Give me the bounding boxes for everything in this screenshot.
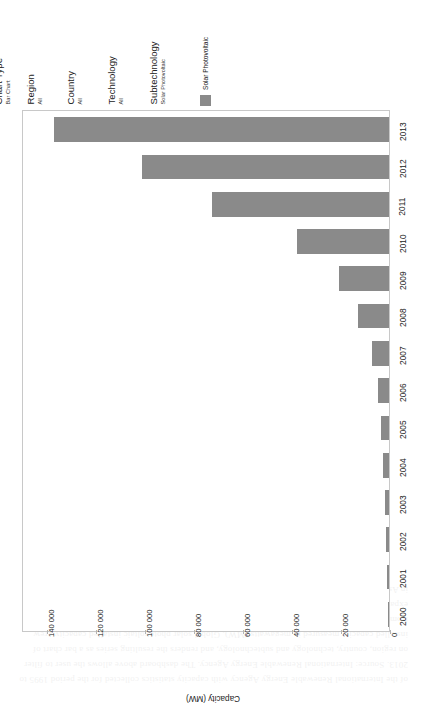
category-label-2000: 2000 <box>392 595 414 632</box>
bar-row <box>23 341 389 366</box>
control-region-label: Region <box>26 74 37 104</box>
control-chart-type-value: Bar Chart <box>5 58 11 104</box>
control-chart-type[interactable]: Chart Type Bar Chart <box>0 58 11 104</box>
control-country-label: Country <box>66 71 77 104</box>
chart-legend: Solar Photovoltaic <box>200 37 211 106</box>
legend-label-solar-photovoltaic: Solar Photovoltaic <box>202 37 209 90</box>
category-label-2001: 2001 <box>392 557 414 594</box>
control-chart-type-label: Chart Type <box>0 58 4 104</box>
category-label-2009: 2009 <box>392 259 414 296</box>
control-subtechnology[interactable]: Subtechnology Solar Photovoltaic <box>149 41 166 104</box>
category-label-2007: 2007 <box>392 334 414 371</box>
value-axis-ticks: 140 000120 000100 00080 00060 00040 0002… <box>22 634 390 692</box>
control-subtechnology-value: Solar Photovoltaic <box>160 41 166 104</box>
bar-row <box>23 378 389 403</box>
bar-row <box>23 155 389 180</box>
control-country[interactable]: Country All <box>66 71 83 104</box>
bar-chart[interactable] <box>22 110 390 632</box>
category-label-2012: 2012 <box>392 147 414 184</box>
control-technology[interactable]: Technology All <box>107 56 124 104</box>
bar-2009[interactable] <box>339 266 389 291</box>
category-label-2003: 2003 <box>392 483 414 520</box>
bar-2012[interactable] <box>142 155 389 180</box>
filter-controls: Chart Type Bar Chart Region All Country … <box>0 0 426 108</box>
control-technology-label: Technology <box>107 56 118 104</box>
bar-row <box>23 453 389 478</box>
bar-row <box>23 602 389 627</box>
category-label-2010: 2010 <box>392 222 414 259</box>
bar-row <box>23 266 389 291</box>
control-region[interactable]: Region All <box>26 74 43 104</box>
bar-2013[interactable] <box>54 117 389 142</box>
category-label-2008: 2008 <box>392 296 414 333</box>
bar-2011[interactable] <box>212 192 389 217</box>
bar-row <box>23 117 389 142</box>
bar-row <box>23 490 389 515</box>
control-region-value: All <box>37 74 43 104</box>
category-label-2005: 2005 <box>392 408 414 445</box>
chart-plot-area <box>22 110 390 632</box>
bar-row <box>23 527 389 552</box>
control-country-value: All <box>77 71 83 104</box>
bar-row <box>23 565 389 590</box>
legend-swatch-solar-photovoltaic <box>200 95 211 106</box>
control-subtechnology-label: Subtechnology <box>149 41 160 104</box>
category-axis-labels: 2013201220112010200920082007200620052004… <box>392 110 418 632</box>
bar-row <box>23 304 389 329</box>
category-label-2002: 2002 <box>392 520 414 557</box>
category-label-2006: 2006 <box>392 371 414 408</box>
bar-row <box>23 192 389 217</box>
bar-2010[interactable] <box>297 229 389 254</box>
category-label-2004: 2004 <box>392 446 414 483</box>
bar-row <box>23 229 389 254</box>
value-axis-title: Capacity (MW) <box>0 694 426 703</box>
category-label-2013: 2013 <box>392 110 414 147</box>
bar-row <box>23 416 389 441</box>
control-technology-value: All <box>118 56 124 104</box>
category-label-2011: 2011 <box>392 185 414 222</box>
